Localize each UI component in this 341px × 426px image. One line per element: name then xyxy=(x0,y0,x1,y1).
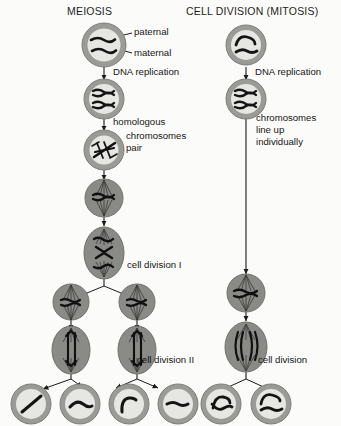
label-cell-division-2: cell division II xyxy=(137,355,194,366)
connector-gamete4 xyxy=(137,379,158,388)
cell-mitosis-metaphase xyxy=(227,274,265,312)
label-paternal: paternal xyxy=(134,27,169,38)
label-dna-replication-right: DNA replication xyxy=(255,67,321,78)
label-pair: pair xyxy=(126,143,142,154)
cell-gamete-4 xyxy=(158,384,198,424)
cell-gamete-3 xyxy=(109,384,149,424)
label-line-up: line up xyxy=(256,125,284,136)
label-homologous: homologous xyxy=(113,117,165,128)
label-cell-division-mitosis: cell division xyxy=(258,355,307,366)
cell-meiosis-anaphase1 xyxy=(84,227,124,279)
label-chromosomes-right: chromosomes xyxy=(256,113,316,124)
label-cell-division-1: cell division I xyxy=(127,260,181,271)
label-chromosomes: chromosomes xyxy=(126,131,186,142)
cell-meiosis-replicated xyxy=(84,79,124,119)
cell-meiosis-anaphase2-right xyxy=(118,326,156,374)
diagram-canvas: MEIOSIS CELL DIVISION (MITOSIS) paternal… xyxy=(0,0,341,426)
cell-daughter-1 xyxy=(201,384,241,424)
cell-mitosis-parent xyxy=(226,25,266,65)
cell-gamete-1 xyxy=(11,384,51,424)
cell-gamete-2 xyxy=(60,384,100,424)
label-individually: individually xyxy=(256,137,303,148)
cell-meiosis-metaphase2-left xyxy=(53,284,89,320)
cell-daughter-2 xyxy=(251,384,291,424)
label-maternal: maternal xyxy=(134,48,171,59)
cell-meiosis-anaphase2-left xyxy=(52,326,90,374)
cell-meiosis-paired xyxy=(84,130,124,170)
cell-meiosis-metaphase2-right xyxy=(119,284,155,320)
column-title-meiosis: MEIOSIS xyxy=(67,5,112,17)
label-dna-replication-left: DNA replication xyxy=(113,67,179,78)
column-title-mitosis: CELL DIVISION (MITOSIS) xyxy=(186,5,318,17)
cell-meiosis-metaphase1 xyxy=(85,179,123,217)
cell-meiosis-parent xyxy=(82,23,126,67)
connector-gamete1 xyxy=(43,379,71,389)
